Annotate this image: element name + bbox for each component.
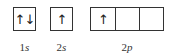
orbital-cell-2p-3 [139, 8, 163, 30]
label-subshell: p [127, 41, 133, 53]
orbital-cell-2p-1: ↑ [91, 8, 115, 30]
orbital-box-1s: ↑↓ [13, 7, 36, 31]
orbital-cell-2s-1: ↑ [51, 8, 72, 30]
orbital-cell-2p-2 [115, 8, 139, 30]
label-subshell: s [62, 41, 66, 53]
orbital-box-2p: ↑ [90, 7, 164, 31]
label-subshell: s [25, 41, 29, 53]
orbital-cell-1s-1: ↑↓ [14, 8, 35, 30]
orbital-label-1s: 1s [13, 41, 36, 53]
orbital-box-2s: ↑ [50, 7, 73, 31]
orbital-label-2s: 2s [50, 41, 73, 53]
orbital-label-2p: 2p [90, 41, 164, 53]
